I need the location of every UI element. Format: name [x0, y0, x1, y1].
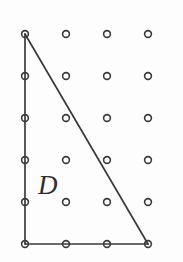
lattice-dot — [145, 157, 152, 164]
lattice-dot — [63, 115, 70, 122]
lattice-dot — [63, 199, 70, 206]
lattice-dot — [145, 31, 152, 38]
lattice-dot — [104, 115, 111, 122]
lattice-dot — [104, 157, 111, 164]
lattice-dot — [63, 73, 70, 80]
lattice-dot — [63, 31, 70, 38]
region-edge-hypotenuse — [25, 34, 148, 244]
lattice-dot — [145, 73, 152, 80]
lattice-dot — [104, 73, 111, 80]
region-label-D: D — [38, 172, 58, 199]
lattice-dot — [145, 199, 152, 206]
lattice-dot — [104, 31, 111, 38]
lattice-dot — [63, 157, 70, 164]
lattice-dot — [104, 199, 111, 206]
figure-container: D — [0, 0, 183, 262]
region-edges-group — [25, 34, 148, 244]
lattice-dot — [145, 115, 152, 122]
lattice-diagram-svg — [0, 0, 183, 262]
